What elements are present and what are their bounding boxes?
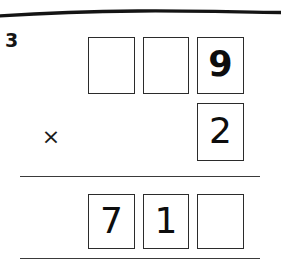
multiplicand-tens-box[interactable]: [143, 37, 189, 94]
page-divider-line: [0, 2, 281, 22]
multiplier-ones-digit: 2: [209, 113, 232, 149]
product-hundreds-box[interactable]: 7: [88, 194, 135, 249]
multiplicand-ones-digit: 9: [208, 47, 232, 82]
problem-number: 3: [5, 29, 18, 51]
problem-bottom-rule: [20, 258, 260, 259]
product-hundreds-digit: 7: [100, 203, 123, 239]
multiplication-operator-icon: ×: [40, 124, 62, 150]
multiplicand-ones-box[interactable]: 9: [197, 37, 244, 94]
multiplication-bar-rule: [20, 176, 260, 177]
product-tens-box[interactable]: 1: [143, 194, 189, 249]
worksheet-problem: 3 9 × 2 7 1: [0, 0, 281, 275]
product-tens-digit: 1: [155, 203, 178, 239]
multiplier-ones-box[interactable]: 2: [197, 103, 244, 161]
product-ones-box[interactable]: [197, 194, 244, 249]
multiplicand-hundreds-box[interactable]: [88, 37, 135, 94]
